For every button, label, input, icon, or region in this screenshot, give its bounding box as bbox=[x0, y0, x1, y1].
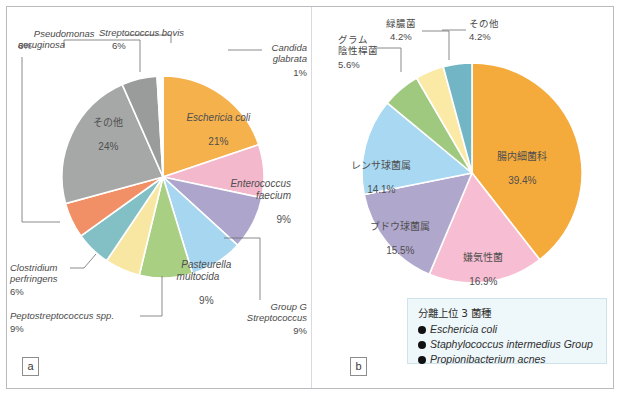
label-streptococcus-bovis-pct: 6% bbox=[112, 40, 126, 51]
label-enterococcus-faecium: Enterococcus faecium 9% bbox=[195, 166, 291, 238]
label-sonota-a-pct: 24% bbox=[98, 141, 118, 152]
label-sonota-b-pct: 4.2% bbox=[469, 31, 491, 42]
panel-tag-b: b bbox=[350, 357, 367, 376]
bullet-icon bbox=[418, 326, 426, 334]
label-peptostreptococcus: Peptostreptococcus spp. bbox=[10, 310, 114, 321]
legend-list: Eschericia coli Staphylococcus intermedi… bbox=[408, 322, 606, 368]
label-renzakyuukin-name: レンサ球菌属 bbox=[351, 160, 411, 171]
figure-root: Pseudomonas aeruginosa 6% Streptococcus … bbox=[0, 0, 622, 401]
panel-b: 緑膿菌 4.2% グラム 陰性桿菌 5.6% その他 4.2% 腸内細菌科 39… bbox=[311, 0, 622, 383]
label-gram-negative-rods: グラム 陰性桿菌 bbox=[338, 34, 378, 56]
label-escherichia-coli: Eschericia coli 21% bbox=[167, 100, 253, 160]
legend-item-label: Staphylococcus intermedius Group bbox=[430, 338, 593, 350]
label-chounai-saikinka: 腸内細菌科 39.4% bbox=[471, 139, 557, 199]
label-clostridium-perfringens: Clostridium perfringens bbox=[10, 262, 58, 284]
legend-item: Propionibacterium acnes bbox=[418, 352, 606, 367]
legend-item-label: Eschericia coli bbox=[430, 323, 497, 335]
bullet-icon bbox=[418, 356, 426, 364]
label-budoukyuukin-pct: 15.5% bbox=[386, 245, 414, 256]
bullet-icon bbox=[418, 341, 426, 349]
label-budoukyuukin-name: ブドウ球菌属 bbox=[370, 221, 430, 232]
label-enterococcus-faecium-pct: 9% bbox=[277, 214, 291, 225]
label-enterococcus-faecium-name: Enterococcus faecium bbox=[230, 178, 291, 201]
legend-item: Eschericia coli bbox=[418, 322, 606, 337]
label-streptococcus-bovis: Streptococcus bovis bbox=[99, 27, 184, 38]
label-pasteurella-multocida-pct: 9% bbox=[199, 295, 213, 306]
label-candida-glabrata: Candida glabrata bbox=[265, 42, 307, 64]
label-clostridium-perfringens-pct: 6% bbox=[10, 286, 24, 297]
label-renzakyuukin-pct: 14.1% bbox=[367, 184, 395, 195]
label-escherichia-coli-pct: 21% bbox=[208, 136, 228, 147]
label-ryokunoukin: 緑膿菌 bbox=[386, 18, 416, 29]
label-chounai-saikinka-name: 腸内細菌科 bbox=[497, 151, 547, 162]
panel-b-legend: 分離上位 3 菌種 Eschericia coli Staphylococcus… bbox=[407, 298, 607, 364]
label-peptostreptococcus-pct: 9% bbox=[10, 323, 24, 334]
legend-title: 分離上位 3 菌種 bbox=[418, 305, 606, 320]
label-kenkiseikin-name: 嫌気性菌 bbox=[463, 252, 503, 263]
label-pseudomonas-pct: 6% bbox=[18, 40, 32, 51]
panel-a: Pseudomonas aeruginosa 6% Streptococcus … bbox=[0, 0, 311, 383]
label-sonota-a-name: その他 bbox=[93, 117, 123, 128]
label-renzakyuukin: レンサ球菌属 14.1% bbox=[331, 148, 415, 208]
panel-tag-a: a bbox=[22, 357, 39, 376]
label-kenkiseikin: 嫌気性菌 16.9% bbox=[439, 240, 511, 300]
label-pasteurella-multocida-name: Pasteurella multocida bbox=[177, 259, 232, 282]
label-sonota-b: その他 bbox=[469, 18, 499, 29]
label-group-g-streptococcus-pct: 9% bbox=[223, 325, 307, 336]
label-kenkiseikin-pct: 16.9% bbox=[469, 276, 497, 287]
label-escherichia-coli-name: Eschericia coli bbox=[186, 112, 250, 123]
label-candida-glabrata-pct: 1% bbox=[265, 67, 307, 78]
label-ryokunoukin-pct: 4.2% bbox=[390, 31, 412, 42]
label-budoukyuukin: ブドウ球菌属 15.5% bbox=[350, 209, 434, 269]
label-gram-negative-rods-pct: 5.6% bbox=[338, 59, 360, 70]
label-sonota-a: その他 24% bbox=[70, 105, 130, 165]
legend-item: Staphylococcus intermedius Group bbox=[418, 337, 606, 352]
label-pasteurella-multocida: Pasteurella multocida 9% bbox=[160, 247, 236, 319]
legend-item-label: Propionibacterium acnes bbox=[430, 353, 546, 365]
label-chounai-saikinka-pct: 39.4% bbox=[508, 175, 536, 186]
